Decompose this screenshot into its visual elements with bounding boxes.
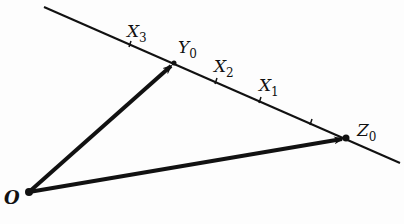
- label-z0: Z0: [356, 120, 376, 144]
- point-y0: [172, 61, 177, 66]
- label-x1: X1: [257, 75, 279, 99]
- label-x2: X2: [212, 56, 234, 80]
- diagram-canvas: X3 Y0 X2 X1 Z0 O: [0, 0, 404, 224]
- label-y0: Y0: [178, 37, 197, 61]
- point-z0: [343, 135, 350, 142]
- point-origin: [25, 188, 33, 196]
- label-x3: X3: [125, 21, 147, 45]
- vector-o-to-z0: [29, 139, 342, 192]
- label-origin: O: [4, 187, 20, 208]
- tick-mark-x3: [129, 41, 131, 47]
- vector-diagram: X3 Y0 X2 X1 Z0 O: [0, 0, 404, 224]
